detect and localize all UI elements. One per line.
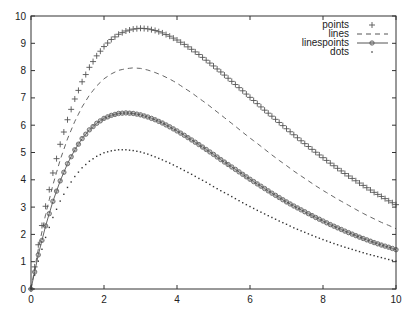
x-tick-label: 4 xyxy=(174,294,180,305)
x-tick-label: 10 xyxy=(390,294,402,305)
legend-label-dots: dots xyxy=(330,46,349,57)
x-tick-label: 0 xyxy=(28,294,34,305)
y-tick-label: 10 xyxy=(15,11,27,22)
y-tick-label: 3 xyxy=(20,202,26,213)
y-tick-label: 7 xyxy=(20,92,26,103)
y-tick-label: 9 xyxy=(20,38,26,49)
y-tick-label: 1 xyxy=(20,256,26,267)
plot-series xyxy=(28,25,399,292)
series-dots xyxy=(30,149,396,290)
series-points xyxy=(28,25,399,292)
legend-sample-dots xyxy=(371,51,372,52)
y-tick-label: 6 xyxy=(20,120,26,131)
chart-canvas: 0246810012345678910 points lines linespo… xyxy=(0,0,416,315)
y-tick-label: 4 xyxy=(20,174,26,185)
legend-sample-points xyxy=(369,22,375,28)
series-linespoints xyxy=(29,111,398,291)
y-tick-label: 8 xyxy=(20,65,26,76)
legend: points lines linespoints dots xyxy=(302,19,388,57)
x-tick-label: 8 xyxy=(320,294,326,305)
legend-sample-linespoints xyxy=(357,41,388,45)
x-tick-label: 2 xyxy=(101,294,107,305)
x-tick-label: 6 xyxy=(247,294,253,305)
y-tick-label: 5 xyxy=(20,147,26,158)
series-lines xyxy=(31,68,396,289)
y-tick-label: 0 xyxy=(20,284,26,295)
y-tick-label: 2 xyxy=(20,229,26,240)
